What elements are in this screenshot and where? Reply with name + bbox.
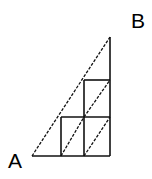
cell-diagonal-lower-left — [61, 117, 84, 156]
cell-diagonal-upper — [84, 80, 110, 117]
label-a: A — [8, 149, 22, 172]
label-b: B — [131, 9, 145, 32]
cell-diagonal-lower-right — [84, 117, 110, 156]
grid-triangle-diagram: A B — [0, 0, 152, 179]
